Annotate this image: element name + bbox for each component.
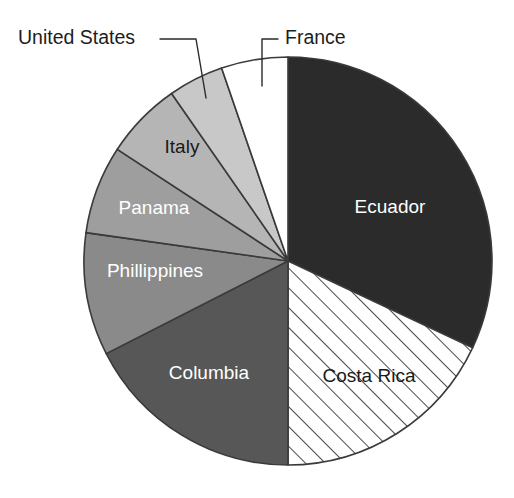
pie-chart-svg: EcuadorCosta RicaColumbiaPhillippinesPan… [0, 0, 514, 498]
slice-label-phillippines: Phillippines [107, 260, 203, 281]
slice-label-italy: Italy [165, 136, 200, 157]
pie-chart-figure: EcuadorCosta RicaColumbiaPhillippinesPan… [0, 0, 514, 498]
callout-label-france: France [285, 26, 346, 48]
slice-label-columbia: Columbia [169, 362, 250, 383]
slice-label-ecuador: Ecuador [355, 196, 426, 217]
callout-label-united-states: United States [18, 26, 135, 48]
slice-label-panama: Panama [119, 197, 190, 218]
slice-label-costa-rica: Costa Rica [323, 365, 416, 386]
